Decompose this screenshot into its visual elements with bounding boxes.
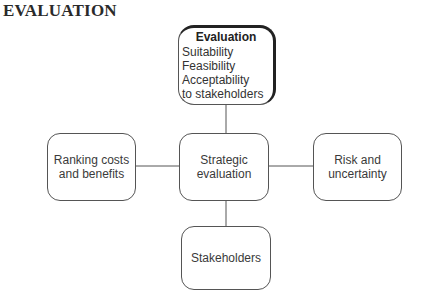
ranking-costs-box: Ranking costs and benefits — [47, 133, 136, 201]
box-label: Stakeholders — [191, 251, 261, 265]
criteria-item: Suitability — [179, 45, 233, 59]
risk-uncertainty-box: Risk and uncertainty — [313, 133, 402, 201]
box-label: Strategic — [200, 153, 247, 167]
evaluation-title: Evaluation — [196, 30, 257, 45]
criteria-item: to stakeholders — [179, 87, 263, 101]
box-label: uncertainty — [328, 167, 387, 181]
criteria-item: Feasibility — [179, 59, 235, 73]
box-label: Ranking costs — [54, 153, 129, 167]
box-label: evaluation — [197, 167, 252, 181]
evaluation-criteria-box: Evaluation Suitability Feasibility Accep… — [178, 25, 276, 105]
strategic-evaluation-box: Strategic evaluation — [179, 133, 269, 201]
stakeholders-box: Stakeholders — [181, 226, 271, 290]
box-label: Risk and — [334, 153, 381, 167]
criteria-item: Acceptability — [179, 73, 249, 87]
box-label: and benefits — [59, 167, 124, 181]
